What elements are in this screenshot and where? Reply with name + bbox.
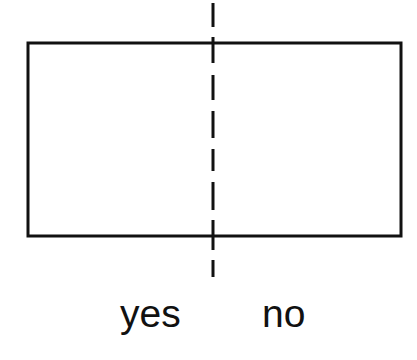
diagram-svg	[0, 0, 417, 360]
diagram-canvas: yes no	[0, 0, 417, 360]
label-no: no	[262, 294, 305, 333]
label-yes: yes	[120, 294, 181, 333]
